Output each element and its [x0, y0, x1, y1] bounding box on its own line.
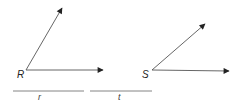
ray-s-upper: [152, 24, 205, 70]
segment-label-t: t: [118, 92, 121, 102]
segment-label-r: r: [38, 92, 42, 102]
segment-r: r: [13, 91, 84, 102]
segment-t: t: [90, 91, 152, 102]
vertex-label-r: R: [17, 69, 24, 80]
vertex-label-s: S: [142, 69, 149, 80]
ray-s-horizontal: [152, 70, 229, 71]
ray-r-upper: [26, 8, 62, 70]
angle-r: R: [17, 8, 103, 80]
angle-s: S: [142, 24, 229, 80]
angle-diagram: R S r t: [0, 0, 237, 102]
